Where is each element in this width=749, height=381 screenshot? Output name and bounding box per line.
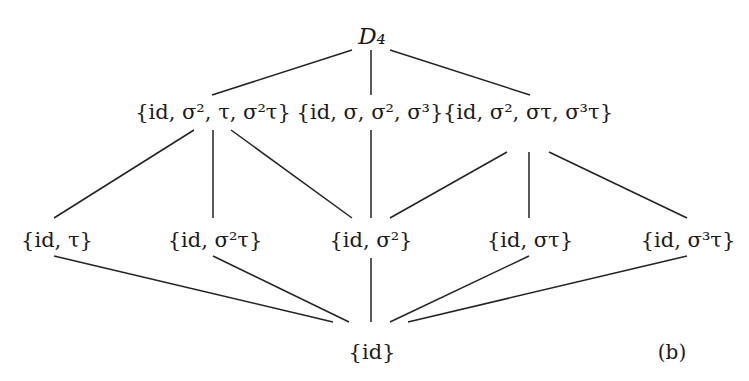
node-tau: {id, τ} (21, 230, 93, 251)
edge-klein_tau-tau (54, 130, 194, 218)
edge-tau-trivial (54, 256, 333, 322)
node-sigmatau: {id, στ} (487, 230, 573, 251)
edge-D4-klein_sigmatau (390, 50, 530, 95)
edge-sigmatau-trivial (390, 256, 529, 322)
node-klein-tau: {id, σ², τ, σ²τ} (135, 102, 291, 123)
node-cyclic-4: {id, σ, σ², σ³} (297, 102, 444, 123)
edge-klein_tau-sigma2 (231, 130, 352, 218)
node-klein-sigmatau: {id, σ², στ, σ³τ} (443, 102, 613, 123)
edge-sigma3tau-trivial (408, 256, 687, 322)
edge-klein_sigmatau-sigma2 (390, 152, 507, 218)
node-d4: D₄ (358, 25, 386, 48)
node-trivial: {id} (349, 342, 396, 363)
lattice-edges (0, 0, 749, 381)
panel-label: (b) (658, 340, 686, 364)
subgroup-lattice-diagram: D₄ {id, σ², τ, σ²τ} {id, σ, σ², σ³} {id,… (0, 0, 749, 381)
node-sigma3tau: {id, σ³τ} (641, 230, 736, 251)
node-sigma2tau: {id, σ²τ} (168, 230, 263, 251)
edge-D4-klein_tau (212, 50, 352, 95)
node-sigma2: {id, σ²} (330, 230, 413, 251)
edge-sigma2tau-trivial (213, 256, 349, 322)
edge-klein_sigmatau-sigma3tau (549, 152, 687, 218)
